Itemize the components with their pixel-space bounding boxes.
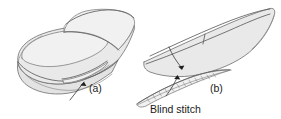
- panel-a-shoe-illustration: [17, 9, 134, 100]
- panel-b-label: (b): [210, 82, 223, 94]
- detail-upper-band: [144, 8, 275, 76]
- blind-stitch-annotation-label: Blind stitch: [150, 103, 201, 115]
- panel-b-sole-detail-illustration: [137, 8, 275, 107]
- blind-stitch-figure: (a) (b) Blind stitch: [0, 0, 281, 119]
- figure-canvas: (a) (b) Blind stitch: [0, 0, 281, 119]
- panel-a-label: (a): [89, 82, 102, 94]
